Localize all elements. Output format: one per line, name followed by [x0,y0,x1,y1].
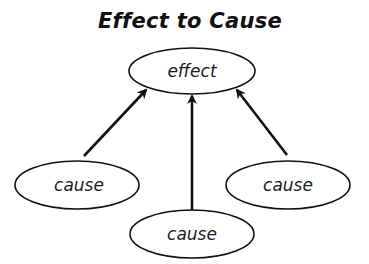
arrow-right-cause-to-effect [237,90,287,155]
cause-bottom-label: cause [167,224,217,244]
cause-node-bottom: cause [130,210,254,258]
effect-node: effect [129,48,255,94]
cause-node-right: cause [226,161,350,209]
effect-label: effect [167,61,218,81]
cause-node-left: cause [15,161,139,209]
cause-left-label: cause [54,175,104,195]
cause-right-label: cause [263,175,313,195]
arrow-left-cause-to-effect [84,90,146,156]
cause-effect-diagram: effect cause cause cause [0,0,369,264]
